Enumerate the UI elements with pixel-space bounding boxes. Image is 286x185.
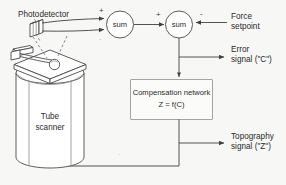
sum-node-2-label: sum bbox=[172, 20, 186, 29]
photodetector-label: Photodetector bbox=[18, 10, 69, 19]
topography-signal-label-line1: Topography bbox=[231, 132, 275, 141]
tube-scanner-label-line2: scanner bbox=[35, 123, 64, 132]
topography-signal-label-line2: signal ("Z") bbox=[231, 142, 271, 151]
force-setpoint-label-line2: setpoint bbox=[231, 22, 260, 31]
compensation-network-label-line1: Compensation network bbox=[133, 88, 211, 97]
force-setpoint-label-line1: Force bbox=[231, 12, 252, 21]
force-setpoint-group: - Force setpoint bbox=[196, 9, 260, 31]
photodetector-group: Photodetector bbox=[18, 10, 69, 37]
stray-mark: . bbox=[118, 148, 120, 157]
error-signal-label-line2: signal ("C") bbox=[231, 55, 272, 64]
sum1-plus-sign: + bbox=[99, 6, 104, 15]
compensation-network-label-line2: Z = f(C) bbox=[159, 100, 185, 109]
error-signal-label-line1: Error bbox=[231, 45, 249, 54]
afm-feedback-diagram: Photodetector + - sum bbox=[0, 0, 286, 185]
compensation-network-block: Compensation network Z = f(C) bbox=[131, 80, 213, 120]
sum2-plus-sign: + bbox=[156, 10, 161, 19]
wire-sum1-to-sum2: + bbox=[134, 10, 164, 25]
tube-scanner-label-line1: Tube bbox=[41, 112, 60, 121]
sum-node-1: sum bbox=[107, 11, 134, 38]
error-signal-group: Error signal ("C") bbox=[179, 38, 272, 64]
sum1-minus-sign: - bbox=[99, 34, 102, 43]
sum-node-2: sum bbox=[166, 11, 193, 38]
sum2-minus-sign: - bbox=[200, 9, 203, 18]
sum-node-1-label: sum bbox=[113, 20, 127, 29]
